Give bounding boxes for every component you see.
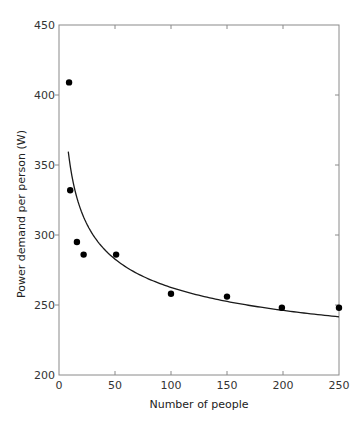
x-axis-label: Number of people — [149, 398, 248, 411]
data-point — [168, 291, 174, 297]
x-tick-label: 0 — [56, 379, 63, 392]
data-point — [80, 251, 86, 257]
y-tick-label: 350 — [34, 159, 55, 172]
data-point — [67, 187, 73, 193]
y-tick-label: 250 — [34, 299, 55, 312]
x-tick-label: 150 — [217, 379, 238, 392]
y-tick-label: 300 — [34, 229, 55, 242]
data-point — [279, 305, 285, 311]
data-point — [336, 305, 342, 311]
data-point — [113, 251, 119, 257]
x-tick-label: 50 — [108, 379, 122, 392]
data-points — [66, 79, 342, 311]
axis-ticks — [55, 25, 339, 375]
y-tick-label: 200 — [34, 369, 55, 382]
fit-line — [68, 152, 339, 317]
data-point — [224, 293, 230, 299]
fitted-curve — [68, 152, 339, 317]
chart: 050100150200250200250300350400450 Number… — [0, 0, 359, 425]
y-axis-label: Power demand per person (W) — [15, 130, 28, 298]
y-tick-label: 400 — [34, 89, 55, 102]
x-tick-label: 100 — [161, 379, 182, 392]
tick-labels: 050100150200250200250300350400450 — [34, 19, 350, 392]
data-point — [74, 239, 80, 245]
x-tick-label: 250 — [329, 379, 350, 392]
plot-frame — [59, 25, 339, 375]
x-tick-label: 200 — [273, 379, 294, 392]
data-point — [66, 79, 72, 85]
plot-area — [59, 25, 339, 375]
y-tick-label: 450 — [34, 19, 55, 32]
